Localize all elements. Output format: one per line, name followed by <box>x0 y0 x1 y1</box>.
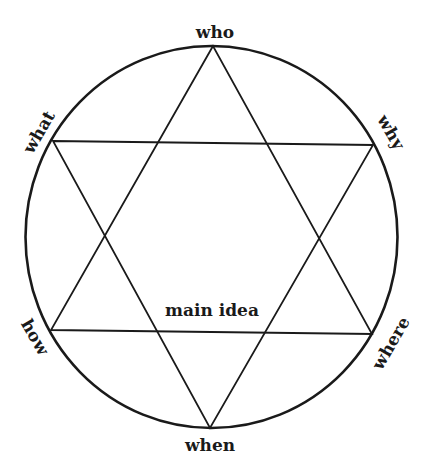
label-main-idea: main idea <box>165 300 259 320</box>
upward-triangle <box>51 46 372 334</box>
label-what: what <box>18 107 59 158</box>
outer-circle <box>26 46 398 428</box>
downward-triangle <box>53 141 373 428</box>
five-w-hexagram-diagram: who when what why how where main idea <box>0 0 424 471</box>
label-how: how <box>17 315 54 359</box>
label-when: when <box>184 435 235 455</box>
label-who: who <box>195 22 234 42</box>
label-why: why <box>373 110 410 154</box>
label-where: where <box>367 313 414 374</box>
